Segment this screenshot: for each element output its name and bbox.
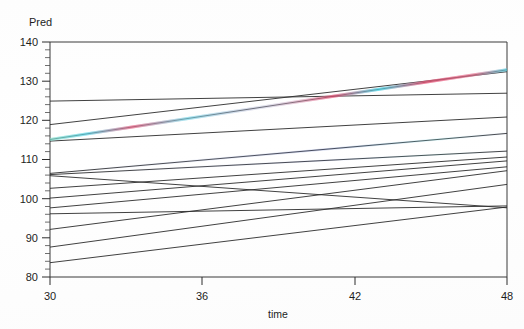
prediction-line [50, 176, 507, 208]
y-tick-label: 140 [20, 36, 38, 48]
y-tick-label: 110 [20, 153, 38, 165]
y-tick-label: 130 [20, 75, 38, 87]
y-axis-title: Pred [29, 16, 52, 28]
x-axis-ticks [50, 277, 507, 285]
x-tick-label: 48 [501, 290, 513, 302]
x-tick-label: 36 [196, 290, 208, 302]
y-tick-label: 80 [26, 271, 38, 283]
y-tick-label: 90 [26, 232, 38, 244]
prediction-lines-group [50, 70, 507, 263]
axis-frame [50, 42, 507, 277]
scan-color-fringe [50, 133, 507, 173]
chart-svg: 140 130 120 110 100 90 80 30 36 42 48 Pr… [0, 0, 524, 329]
x-tick-label: 30 [44, 290, 56, 302]
y-axis-major-ticks [42, 42, 50, 277]
y-tick-label: 120 [20, 114, 38, 126]
prediction-line [50, 206, 507, 214]
scan-color-fringe [50, 151, 507, 175]
x-tick-label: 42 [349, 290, 361, 302]
x-tick-labels: 30 36 42 48 [44, 290, 513, 302]
prediction-line-chart-figure: 140 130 120 110 100 90 80 30 36 42 48 Pr… [0, 0, 524, 329]
prediction-line [50, 93, 507, 101]
x-axis-title: time [268, 308, 288, 320]
y-tick-label: 100 [20, 193, 38, 205]
scan-color-fringe-group [50, 70, 507, 175]
y-tick-labels: 140 130 120 110 100 90 80 [20, 36, 38, 283]
